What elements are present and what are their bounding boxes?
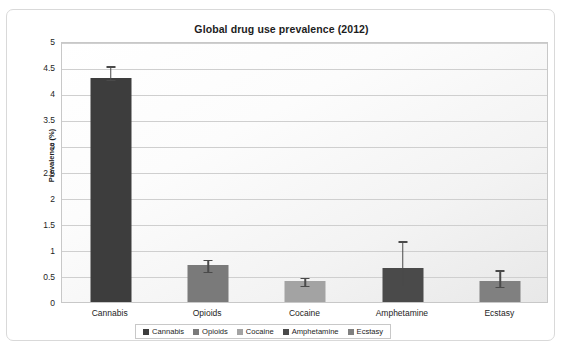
error-bar-cap-bottom (496, 287, 505, 289)
y-axis-tick-label: 2 (21, 194, 55, 204)
x-axis-tick-label: Cocaine (256, 308, 353, 318)
y-axis-tick-label: 3 (21, 141, 55, 151)
legend-swatch-icon (348, 329, 354, 335)
error-bar-cannabis (110, 66, 112, 79)
x-axis-tick-label: Amphetamine (353, 308, 450, 318)
legend-label: Cocaine (246, 327, 274, 336)
y-axis-tick-label: 1.5 (21, 220, 55, 230)
y-axis-tick-label: 2.5 (21, 168, 55, 178)
legend-label: Opioids (202, 327, 228, 336)
error-bar-cap-bottom (301, 286, 310, 288)
y-axis-tick-label: 5 (21, 37, 55, 47)
error-bar-cap-top (301, 278, 310, 280)
error-bar-cap-top (106, 66, 115, 68)
error-bar-opioids (207, 260, 209, 272)
bar-slot (159, 43, 256, 302)
legend-entry[interactable]: Opioids (193, 327, 228, 336)
error-bar-cap-top (204, 260, 213, 262)
chart-legend: CannabisOpioidsCocaineAmphetamineEcstasy (135, 324, 391, 339)
bar-slot (452, 43, 548, 302)
error-bar-cap-top (398, 241, 407, 243)
x-axis-tick-label: Opioids (158, 308, 255, 318)
bar-slot (62, 43, 159, 302)
bar-cannabis[interactable] (90, 78, 131, 302)
error-bar-cap-bottom (398, 286, 407, 288)
legend-entry[interactable]: Cocaine (237, 327, 274, 336)
bar-slot (354, 43, 451, 302)
chart-title: Global drug use prevalence (2012) (7, 23, 556, 35)
y-axis-tick-label: 0.5 (21, 272, 55, 282)
y-axis-tick-label: 3.5 (21, 115, 55, 125)
legend-label: Amphetamine (292, 327, 339, 336)
legend-entry[interactable]: Ecstasy (348, 327, 384, 336)
y-axis-tick-label: 4 (21, 89, 55, 99)
y-axis-tick-label: 4.5 (21, 63, 55, 73)
legend-swatch-icon (143, 329, 149, 335)
error-bar-ecstasy (500, 270, 502, 287)
error-bar-cap-bottom (204, 272, 213, 274)
bar-slot (257, 43, 354, 302)
legend-entry[interactable]: Cannabis (143, 327, 184, 336)
x-axis-tick-label: Cannabis (61, 308, 158, 318)
error-bar-cap-bottom (106, 80, 115, 82)
legend-swatch-icon (283, 329, 289, 335)
legend-swatch-icon (237, 329, 243, 335)
legend-entry[interactable]: Amphetamine (283, 327, 339, 336)
plot-area (61, 42, 548, 303)
error-bar-amphetamine (402, 241, 404, 285)
legend-label: Ecstasy (357, 327, 384, 336)
x-axis-tick-label: Ecstasy (451, 308, 548, 318)
y-axis-tick-label: 0 (21, 298, 55, 308)
y-axis-tick-label: 1 (21, 246, 55, 256)
chart-frame: Global drug use prevalence (2012) Preval… (6, 9, 555, 341)
legend-label: Cannabis (152, 327, 184, 336)
legend-swatch-icon (193, 329, 199, 335)
error-bar-cap-top (496, 270, 505, 272)
